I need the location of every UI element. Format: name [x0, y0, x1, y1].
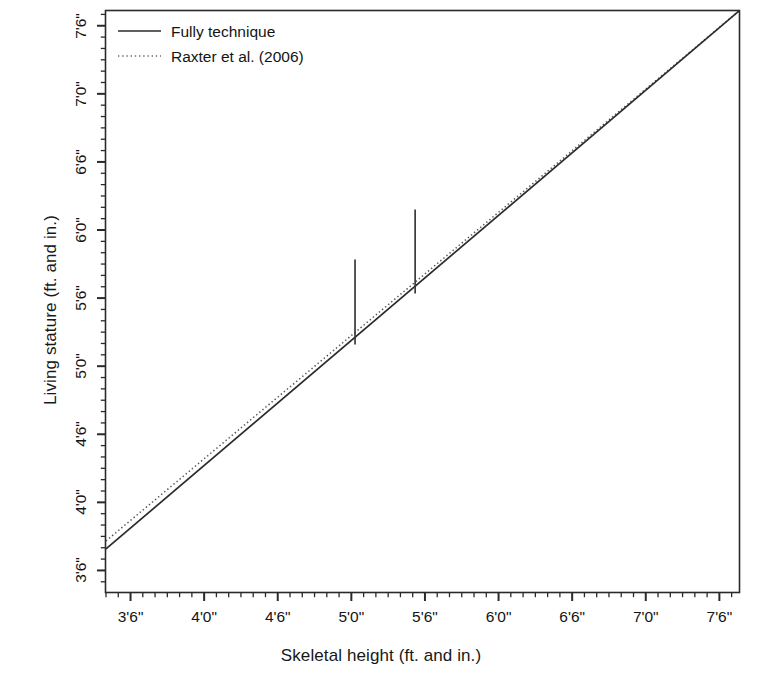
plot-border: [106, 11, 740, 593]
series-line-fully: [106, 11, 739, 549]
x-tick-label: 7'6": [707, 608, 733, 626]
x-tick-label: 5'6": [412, 608, 438, 626]
y-axis-title-wrapper: Living stature (ft. and in.): [41, 0, 61, 684]
x-axis-ticks: [106, 592, 732, 601]
y-tick-label: 6'6": [72, 149, 90, 175]
y-axis-title: Living stature (ft. and in.): [41, 215, 61, 405]
legend-label-fully-technique: Fully technique: [171, 23, 275, 41]
y-tick-label: 7'6": [72, 13, 90, 39]
series-line-raxter: [106, 11, 739, 541]
y-tick-label: 5'6": [72, 285, 90, 311]
x-tick-label: 5'0": [338, 608, 364, 626]
y-tick-label: 4'6": [72, 421, 90, 447]
y-tick-label: 7'0": [72, 81, 90, 107]
y-tick-label: 6'0": [72, 217, 90, 243]
chart-figure: Fully technique Raxter et al. (2006) Ske…: [0, 0, 762, 684]
x-axis-title: Skeletal height (ft. and in.): [0, 646, 762, 666]
x-tick-label: 6'0": [486, 608, 512, 626]
x-tick-label: 4'6": [265, 608, 291, 626]
plot-area: [0, 0, 762, 684]
legend-label-raxter: Raxter et al. (2006): [171, 48, 304, 66]
y-tick-label: 3'6": [72, 558, 90, 584]
x-tick-label: 7'0": [633, 608, 659, 626]
x-tick-label: 3'6": [118, 608, 144, 626]
y-axis-ticks: [97, 14, 106, 581]
y-tick-label: 5'0": [72, 353, 90, 379]
x-tick-label: 6'6": [559, 608, 585, 626]
x-tick-label: 4'0": [191, 608, 217, 626]
y-tick-label: 4'0": [72, 489, 90, 515]
